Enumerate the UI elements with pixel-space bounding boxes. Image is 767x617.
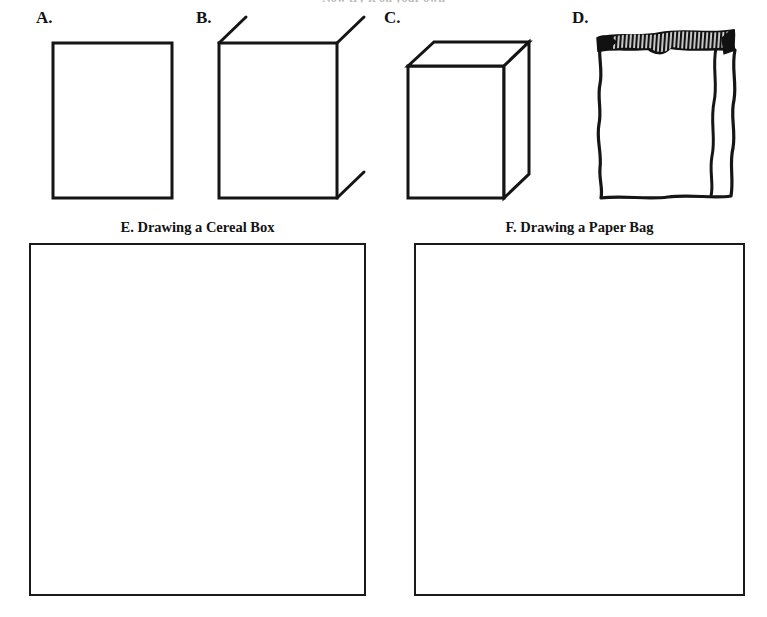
drawing-area-cereal-box-caption: E. Drawing a Cereal Box	[29, 220, 366, 235]
step-a-rectangle-drawing	[48, 38, 183, 208]
step-d-paper-bag	[594, 18, 754, 208]
worksheet-page: Now try it on your own A. B. C.	[0, 0, 767, 617]
drawing-area-cereal-box[interactable]	[29, 243, 366, 596]
step-b-rectangle-drawing	[205, 14, 365, 209]
step-a-rectangle	[48, 38, 183, 208]
step-label-d: D.	[572, 9, 589, 26]
guide-line-top-left	[219, 17, 246, 43]
step-label-a: A.	[36, 9, 53, 26]
step-c-finished-box	[400, 24, 540, 204]
step-d-paper-bag-drawing	[594, 18, 754, 208]
drawing-area-paper-bag[interactable]	[414, 243, 745, 596]
drawing-area-paper-bag-caption: F. Drawing a Paper Bag	[414, 220, 745, 235]
step-b-rectangle-with-guides	[205, 14, 365, 209]
guide-line-top-right	[337, 17, 364, 43]
step-label-c: C.	[384, 9, 401, 26]
top-instruction-text: Now try it on your own	[0, 0, 767, 3]
guide-line-bottom-right	[337, 172, 364, 198]
step-c-box-drawing	[400, 24, 540, 204]
